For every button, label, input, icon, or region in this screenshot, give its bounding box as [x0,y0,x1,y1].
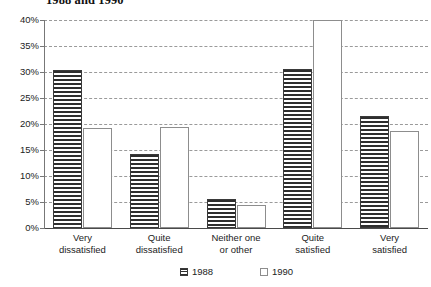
y-axis-tick [40,72,45,73]
y-axis-label: 10% [3,171,39,180]
y-axis-tick [40,98,45,99]
y-axis-label: 15% [3,145,39,154]
x-axis-label-line: Neither one [198,232,275,244]
y-axis-tick [40,46,45,47]
bar-1990-very-dissatisfied [83,128,112,228]
y-axis-label: 40% [3,15,39,24]
bar-1988-quite-satisfied [283,69,312,228]
y-axis-tick [40,176,45,177]
y-axis-label: 35% [3,41,39,50]
y-axis-labels: 40%35%30%25%20%15%10%5%0% [0,0,39,287]
x-axis-label-line: Very [351,232,428,244]
empty-swatch-icon [260,268,268,276]
y-axis-label: 30% [3,67,39,76]
x-axis-category-labels: VerydissatisfiedQuitedissatisfiedNeither… [44,232,428,262]
x-axis-label-line: satisfied [274,244,351,256]
plot-area [44,20,428,228]
y-axis-label: 20% [3,119,39,128]
gridline-40 [44,20,428,21]
x-axis-label-line: dissatisfied [121,244,198,256]
y-axis-tick [40,20,45,21]
bar-1988-quite-dissatisfied [130,154,159,228]
y-axis-tick [40,124,45,125]
bar-1990-neither-one-or-other [237,205,266,228]
y-axis-label: 25% [3,93,39,102]
legend-item-label: 1990 [272,266,293,277]
bar-1988-very-dissatisfied [53,70,82,228]
y-axis-label: 0% [3,223,39,232]
gridline-30 [44,72,428,73]
chart-legend: 19881990 [44,266,428,282]
x-axis-label-line: Quite [121,232,198,244]
gridline-35 [44,46,428,47]
gridline-25 [44,98,428,99]
hatched-swatch-icon [180,268,188,276]
y-axis-tick [40,228,45,229]
x-axis-label-very-dissatisfied: Verydissatisfied [44,232,121,255]
bar-1990-quite-satisfied [313,20,342,228]
legend-item-1990[interactable]: 1990 [260,266,293,277]
y-axis-tick [40,150,45,151]
x-axis-label-neither-one-or-other: Neither oneor other [198,232,275,255]
bar-1988-neither-one-or-other [207,199,236,228]
x-axis-label-line: satisfied [351,244,428,256]
bar-1990-quite-dissatisfied [160,127,189,228]
legend-item-1988[interactable]: 1988 [180,266,213,277]
x-axis-label-line: dissatisfied [44,244,121,256]
gridline-0 [44,228,428,229]
x-axis-label-line: Quite [274,232,351,244]
x-axis-label-very-satisfied: Verysatisfied [351,232,428,255]
y-axis-label: 5% [3,197,39,206]
bar-1990-very-satisfied [390,131,419,228]
x-axis-label-line: or other [198,244,275,256]
x-axis-label-line: Very [44,232,121,244]
x-axis-label-quite-satisfied: Quitesatisfied [274,232,351,255]
x-axis-label-quite-dissatisfied: Quitedissatisfied [121,232,198,255]
y-axis-tick [40,202,45,203]
legend-item-label: 1988 [192,266,213,277]
chart-title: 1988 and 1990 [46,0,286,4]
bar-1988-very-satisfied [360,116,389,228]
bar-chart: 1988 and 1990 40%35%30%25%20%15%10%5%0% … [0,0,431,287]
